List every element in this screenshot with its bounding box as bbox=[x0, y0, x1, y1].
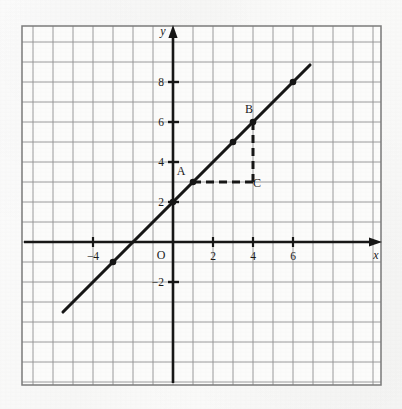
x-axis-label: x bbox=[372, 248, 379, 262]
point-label-b: B bbox=[245, 102, 253, 116]
y-tick-label: 8 bbox=[158, 76, 164, 88]
y-tick-label: 6 bbox=[158, 116, 164, 128]
x-tick-label: 2 bbox=[210, 250, 216, 262]
data-point-marker bbox=[250, 119, 257, 126]
point-label-a: A bbox=[177, 164, 186, 178]
graph-figure: −4246−22468 ABC O x y bbox=[0, 0, 402, 409]
grid-background bbox=[22, 26, 381, 385]
data-point-marker bbox=[230, 139, 237, 146]
origin-label: O bbox=[157, 248, 166, 262]
y-tick-label: 4 bbox=[158, 156, 164, 168]
x-tick-label: 6 bbox=[290, 250, 296, 262]
y-tick-label: 2 bbox=[158, 196, 164, 208]
x-tick-label: 4 bbox=[250, 250, 256, 262]
y-tick-label: −2 bbox=[152, 276, 164, 288]
coordinate-plane-svg: −4246−22468 ABC O x y bbox=[0, 0, 402, 409]
data-point-marker bbox=[290, 79, 297, 86]
data-point-marker bbox=[190, 179, 197, 186]
point-label-c: C bbox=[253, 176, 261, 190]
y-axis-label: y bbox=[159, 24, 166, 38]
data-point-marker bbox=[170, 199, 177, 206]
x-tick-label: −4 bbox=[87, 250, 99, 262]
data-point-marker bbox=[110, 259, 117, 266]
